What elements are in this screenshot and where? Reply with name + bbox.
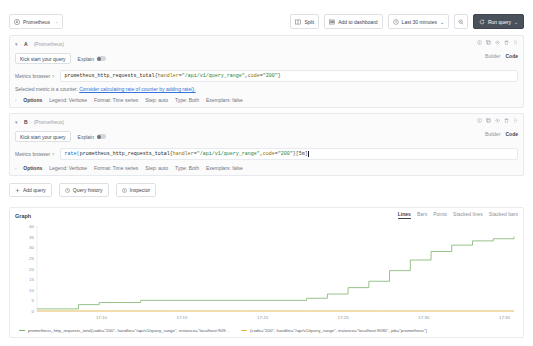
expr-value-2: "200" [278, 151, 293, 157]
clock-icon [393, 19, 399, 25]
explain-label: Explain [78, 134, 94, 140]
timeseries-svg: 051015202530354017:1017:1517:2017:2517:3… [15, 222, 520, 327]
query-a-hint: Selected metric is a counter. Consider c… [15, 86, 518, 92]
svg-text:15: 15 [29, 277, 34, 282]
add-query-button[interactable]: Add query [9, 183, 52, 197]
metrics-browser-label: Metrics browser [15, 73, 50, 79]
mode-builder-tab[interactable]: Builder [485, 53, 501, 59]
query-b-expression-input[interactable]: rate(prometheus_http_requests_total{hand… [60, 148, 518, 160]
top-toolbar: Prometheus ⌄ Split Add to dashboard Last… [9, 14, 524, 29]
mode-code-tab[interactable]: Code [506, 131, 519, 137]
metrics-browser-label: Metrics browser [15, 151, 50, 157]
trash-icon[interactable] [504, 118, 509, 123]
drag-handle-icon[interactable] [513, 40, 518, 45]
query-a-mode-switcher: Builder Code [485, 53, 518, 59]
expr-metric: prometheus_http_requests_total [65, 73, 155, 79]
query-a-options-row[interactable]: › Options Legend: Verbose Format: Time s… [15, 97, 518, 103]
copy-icon[interactable] [486, 40, 491, 45]
option-legend: Legend: Verbose [49, 165, 87, 171]
viz-option-stacked-bars[interactable]: Stacked bars [489, 211, 518, 219]
zoom-out-button[interactable] [454, 14, 468, 29]
split-label: Split [304, 19, 314, 25]
svg-text:17:35: 17:35 [499, 315, 511, 320]
kick-start-query-button[interactable]: Kick start your query [15, 131, 71, 142]
explore-page: Prometheus ⌄ Split Add to dashboard Last… [0, 14, 533, 346]
query-history-button[interactable]: Query history [59, 183, 109, 197]
add-to-dashboard-button[interactable]: Add to dashboard [324, 14, 382, 29]
option-format: Format: Time series [94, 165, 138, 171]
chevron-right-icon: › [15, 98, 16, 103]
query-row-b-header: ▾ B (Prometheus) [15, 118, 518, 126]
split-button[interactable]: Split [290, 14, 319, 29]
svg-text:17:25: 17:25 [338, 315, 350, 320]
query-b-kickstart-row: Kick start your query Explain [15, 131, 518, 142]
metrics-browser-button[interactable]: Metrics browser > [15, 73, 55, 79]
query-ref-id[interactable]: B [24, 119, 28, 125]
inspector-button[interactable]: Inspector [116, 183, 157, 197]
graph-plot-area[interactable]: 051015202530354017:1017:1517:2017:2517:3… [15, 222, 518, 327]
explain-toggle-group[interactable]: Explain [78, 56, 106, 62]
expr-value-1: "/api/v1/query_range" [197, 151, 260, 157]
hint-action-link[interactable]: Consider calculating rate of counter by … [79, 86, 195, 92]
add-query-label: Add query [23, 187, 46, 193]
svg-text:10: 10 [29, 288, 34, 293]
collapse-icon[interactable]: ▾ [15, 41, 18, 47]
query-a-expression-input[interactable]: prometheus_http_requests_total{handler="… [60, 70, 518, 82]
query-action-bar: Add query Query history Inspector [9, 183, 524, 197]
viz-option-bars[interactable]: Bars [417, 211, 427, 219]
expr-label-2: code [263, 151, 275, 157]
trash-icon[interactable] [504, 40, 509, 45]
info-icon[interactable] [477, 40, 482, 45]
expr-brace-close: } [278, 73, 281, 79]
legend-swatch [19, 330, 25, 332]
graph-panel: Graph Lines Bars Points Stacked lines St… [9, 207, 524, 338]
eye-icon[interactable] [495, 40, 500, 45]
query-b-options-row[interactable]: › Options Legend: Verbose Format: Time s… [15, 165, 518, 171]
prometheus-icon [14, 19, 20, 25]
run-query-button[interactable]: Run query ⌄ [473, 14, 524, 29]
legend-item[interactable]: prometheus_http_requests_total{code="200… [19, 328, 229, 333]
option-format: Format: Time series [94, 97, 138, 103]
datasource-picker[interactable]: Prometheus ⌄ [9, 14, 63, 29]
svg-text:30: 30 [29, 245, 34, 250]
collapse-icon[interactable]: ▾ [15, 119, 18, 125]
datasource-label: Prometheus [23, 19, 50, 25]
kick-start-query-button[interactable]: Kick start your query [15, 53, 71, 64]
chevron-down-icon: ⌄ [514, 19, 518, 25]
query-a-expression-row: Metrics browser > prometheus_http_reques… [15, 70, 518, 82]
viz-option-points[interactable]: Points [433, 211, 447, 219]
expr-label-1: handler [173, 151, 194, 157]
mode-builder-tab[interactable]: Builder [485, 131, 501, 137]
query-row-a-actions [477, 40, 518, 45]
copy-icon[interactable] [486, 118, 491, 123]
svg-text:17:10: 17:10 [96, 315, 108, 320]
legend-label: prometheus_http_requests_total{code="200… [28, 328, 229, 333]
chevron-down-icon: ⌄ [440, 19, 444, 25]
query-row-a-header: ▾ A (Prometheus) [15, 40, 518, 48]
option-exemplars: Exemplars: false [206, 165, 243, 171]
run-query-label: Run query [488, 19, 511, 25]
drag-handle-icon[interactable] [513, 118, 518, 123]
query-a-kickstart-row: Kick start your query Explain [15, 53, 518, 64]
option-legend: Legend: Verbose [49, 97, 87, 103]
chevron-right-icon: › [15, 166, 16, 171]
eye-icon[interactable] [495, 118, 500, 123]
explain-toggle[interactable] [97, 134, 106, 139]
option-step: Step: auto [145, 165, 168, 171]
info-icon[interactable] [477, 118, 482, 123]
svg-text:40: 40 [29, 224, 34, 229]
time-range-picker[interactable]: Last 30 minutes ⌄ [388, 14, 449, 29]
explain-toggle-group[interactable]: Explain [78, 134, 106, 140]
metrics-browser-button[interactable]: Metrics browser > [15, 151, 55, 157]
svg-text:0: 0 [32, 309, 35, 314]
query-row-b: ▾ B (Prometheus) Kick start your query E… [9, 113, 524, 176]
mode-code-tab[interactable]: Code [506, 53, 519, 59]
explain-toggle[interactable] [97, 56, 106, 61]
viz-option-lines[interactable]: Lines [398, 211, 411, 219]
legend-swatch [241, 330, 247, 332]
svg-text:17:15: 17:15 [177, 315, 189, 320]
legend-item[interactable]: {code="200", handler="/api/v1/query_rang… [241, 328, 427, 333]
query-ref-id[interactable]: A [24, 41, 28, 47]
svg-text:17:30: 17:30 [418, 315, 430, 320]
viz-option-stacked-lines[interactable]: Stacked lines [453, 211, 483, 219]
